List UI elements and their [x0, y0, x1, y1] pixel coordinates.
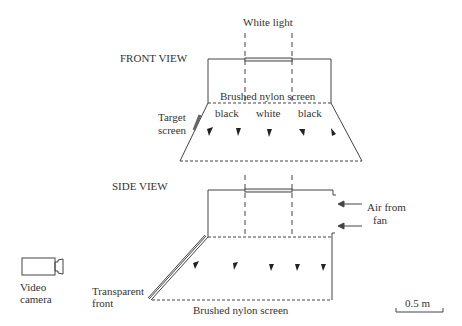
black-left-label: black [215, 107, 239, 119]
black-right-label: black [298, 107, 322, 119]
air-from-fan-label-1: Air from [367, 201, 406, 213]
side-view-drawing [148, 175, 362, 300]
air-from-fan-label-2: fan [373, 214, 387, 226]
insect-markers [193, 127, 336, 271]
side-view-title: SIDE VIEW [112, 180, 168, 192]
video-camera-label-2: camera [20, 293, 52, 305]
front-nylon-screen-label: Brushed nylon screen [220, 90, 315, 102]
apparatus-diagram [0, 0, 462, 326]
target-screen-label-1: Target [158, 111, 186, 123]
target-screen-label-2: screen [158, 124, 186, 136]
front-view-title: FRONT VIEW [120, 52, 187, 64]
side-nylon-screen-label: Brushed nylon screen [193, 304, 288, 316]
white-light-label: White light [243, 16, 293, 28]
scale-label: 0.5 m [405, 297, 430, 309]
transparent-front-label-2: front [92, 297, 113, 309]
transparent-front-label-1: Transparent [92, 285, 144, 297]
video-camera-label-1: Video [20, 281, 46, 293]
white-label: white [256, 107, 280, 119]
video-camera-icon [22, 258, 63, 275]
